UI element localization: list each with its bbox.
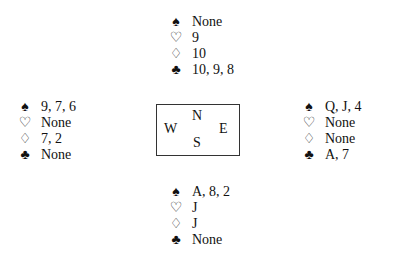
spade-icon: ♠ (18, 99, 32, 115)
south-hearts-cards: J (192, 200, 197, 216)
south-spades-row: ♠A, 8, 2 (169, 184, 230, 200)
north-clubs-cards: 10, 9, 8 (192, 62, 234, 78)
north-hearts-cards: 9 (192, 30, 199, 46)
compass-west-label: W (164, 122, 177, 136)
north-spades-row: ♠None (169, 14, 234, 30)
compass-south-label: S (193, 136, 201, 150)
south-spades-cards: A, 8, 2 (192, 184, 230, 200)
west-hearts-cards: None (41, 115, 71, 131)
diamond-icon: ♢ (169, 216, 183, 232)
south-hand: ♠A, 8, 2 ♡J ♢J ♣None (169, 184, 230, 248)
west-clubs-row: ♣None (18, 147, 76, 163)
north-clubs-row: ♣10, 9, 8 (169, 62, 234, 78)
diamond-icon: ♢ (302, 131, 316, 147)
north-hearts-row: ♡9 (169, 30, 234, 46)
north-spades-cards: None (192, 14, 222, 30)
east-diamonds-cards: None (325, 131, 355, 147)
east-diamonds-row: ♢None (302, 131, 362, 147)
east-hand: ♠Q, J, 4 ♡None ♢None ♣A, 7 (302, 99, 362, 163)
south-hearts-row: ♡J (169, 200, 230, 216)
west-diamonds-cards: 7, 2 (41, 131, 62, 147)
north-diamonds-cards: 10 (192, 46, 206, 62)
compass-north-label: N (192, 109, 202, 123)
east-clubs-row: ♣A, 7 (302, 147, 362, 163)
east-spades-row: ♠Q, J, 4 (302, 99, 362, 115)
south-clubs-row: ♣None (169, 232, 230, 248)
diamond-icon: ♢ (169, 46, 183, 62)
west-hearts-row: ♡None (18, 115, 76, 131)
spade-icon: ♠ (169, 14, 183, 30)
club-icon: ♣ (302, 147, 316, 163)
east-clubs-cards: A, 7 (325, 147, 349, 163)
east-spades-cards: Q, J, 4 (325, 99, 362, 115)
spade-icon: ♠ (302, 99, 316, 115)
club-icon: ♣ (18, 147, 32, 163)
heart-icon: ♡ (18, 115, 32, 131)
west-diamonds-row: ♢7, 2 (18, 131, 76, 147)
east-hearts-row: ♡None (302, 115, 362, 131)
south-clubs-cards: None (192, 232, 222, 248)
west-hand: ♠9, 7, 6 ♡None ♢7, 2 ♣None (18, 99, 76, 163)
compass-east-label: E (219, 122, 228, 136)
spade-icon: ♠ (169, 184, 183, 200)
club-icon: ♣ (169, 232, 183, 248)
north-hand: ♠None ♡9 ♢10 ♣10, 9, 8 (169, 14, 234, 78)
west-clubs-cards: None (41, 147, 71, 163)
west-spades-cards: 9, 7, 6 (41, 99, 76, 115)
north-diamonds-row: ♢10 (169, 46, 234, 62)
club-icon: ♣ (169, 62, 183, 78)
heart-icon: ♡ (169, 200, 183, 216)
west-spades-row: ♠9, 7, 6 (18, 99, 76, 115)
compass-box: N W E S (156, 104, 240, 156)
east-hearts-cards: None (325, 115, 355, 131)
south-diamonds-cards: J (192, 216, 197, 232)
south-diamonds-row: ♢J (169, 216, 230, 232)
heart-icon: ♡ (302, 115, 316, 131)
heart-icon: ♡ (169, 30, 183, 46)
diamond-icon: ♢ (18, 131, 32, 147)
